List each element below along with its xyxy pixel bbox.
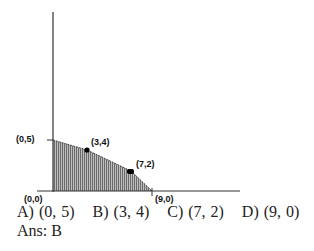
option-c: C) (7, 2) [167, 203, 224, 220]
option-d: D) (9, 0) [242, 203, 300, 220]
label-3-4: (3,4) [91, 137, 110, 147]
option-b: B) (3, 4) [93, 203, 150, 220]
label-7-2: (7,2) [136, 159, 155, 169]
point-7-2 [127, 169, 134, 174]
option-a: A) (0, 5) [17, 203, 75, 220]
label-0-5: (0,5) [16, 134, 35, 144]
answer-text: Ans: B [17, 222, 62, 240]
answer-options: A) (0, 5) B) (3, 4) C) (7, 2) D) (9, 0) [17, 203, 312, 221]
point-3-4 [84, 147, 89, 152]
